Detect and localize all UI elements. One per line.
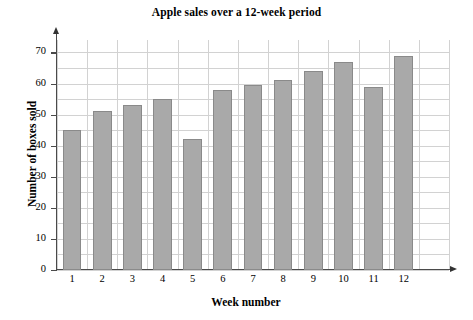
x-axis-tick-label: 3 xyxy=(117,273,147,284)
x-axis-tick-label: 5 xyxy=(178,273,208,284)
y-axis-tick xyxy=(51,239,57,240)
x-axis-tick-label: 6 xyxy=(208,273,238,284)
y-axis-tick-label: 70 xyxy=(6,45,46,56)
grid-line-vertical xyxy=(147,40,148,270)
bar xyxy=(304,71,323,270)
grid-line-vertical xyxy=(389,40,390,270)
bar xyxy=(153,99,172,270)
y-axis-tick xyxy=(51,270,57,271)
bar xyxy=(183,139,202,270)
x-axis-tick-label: 7 xyxy=(238,273,268,284)
y-axis-tick-label: 20 xyxy=(6,201,46,212)
grid-line-vertical xyxy=(359,40,360,270)
grid-line-vertical xyxy=(117,40,118,270)
grid-line-vertical xyxy=(238,40,239,270)
y-axis-tick xyxy=(51,146,57,147)
grid-line-vertical xyxy=(268,40,269,270)
x-axis-tick-label: 1 xyxy=(57,273,87,284)
y-axis-tick-label: 40 xyxy=(6,139,46,150)
bar xyxy=(123,105,142,270)
bar xyxy=(93,111,112,270)
x-axis-arrow-icon xyxy=(450,266,457,272)
x-axis-tick-label: 9 xyxy=(298,273,328,284)
grid-line-vertical xyxy=(87,40,88,270)
y-axis-tick-label: 0 xyxy=(6,263,46,274)
grid-line-vertical xyxy=(298,40,299,270)
y-axis-tick-label: 10 xyxy=(6,232,46,243)
x-axis-tick-label: 8 xyxy=(268,273,298,284)
x-axis-tick-label: 4 xyxy=(148,273,178,284)
y-axis-tick xyxy=(51,84,57,85)
grid-line-vertical xyxy=(419,40,420,270)
grid-line-horizontal xyxy=(57,68,449,69)
grid-line-vertical xyxy=(178,40,179,270)
y-axis-tick-label: 50 xyxy=(6,108,46,119)
x-axis-tick-label: 10 xyxy=(328,273,358,284)
y-axis-tick xyxy=(51,177,57,178)
bar xyxy=(364,87,383,270)
bar xyxy=(213,90,232,270)
chart-title: Apple sales over a 12-week period xyxy=(0,6,473,18)
grid-line-vertical xyxy=(449,40,450,270)
grid-line-vertical xyxy=(208,40,209,270)
grid-line-vertical xyxy=(328,40,329,270)
x-axis-tick-label: 2 xyxy=(87,273,117,284)
bar xyxy=(394,56,413,270)
y-axis-tick xyxy=(51,208,57,209)
y-axis-tick-label: 30 xyxy=(6,170,46,181)
bar xyxy=(274,80,293,270)
x-axis-title: Week number xyxy=(56,296,436,308)
y-axis-tick xyxy=(51,115,57,116)
bar xyxy=(63,130,82,270)
y-axis-tick-label: 60 xyxy=(6,77,46,88)
y-axis-arrow-icon xyxy=(53,27,59,34)
x-axis-tick-label: 12 xyxy=(389,273,419,284)
y-axis-line xyxy=(56,33,57,271)
grid-line-horizontal xyxy=(57,52,449,53)
y-axis-tick xyxy=(51,52,57,53)
x-axis-tick-label: 11 xyxy=(359,273,389,284)
bar-chart-figure: Apple sales over a 12-week period Number… xyxy=(0,0,473,320)
bar xyxy=(244,85,263,270)
bar xyxy=(334,62,353,270)
